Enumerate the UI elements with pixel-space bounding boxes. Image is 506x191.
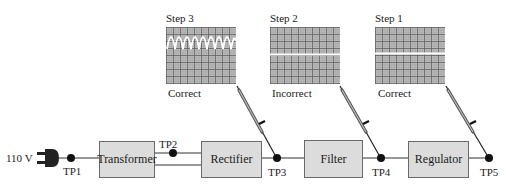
- scope-screen-step1: [375, 27, 445, 84]
- source-voltage-label: 110 V: [6, 153, 33, 164]
- step1-result: Correct: [378, 88, 411, 99]
- tp5-dot: [485, 154, 493, 162]
- troubleshooting-diagram: 110 V Transformer Rectifier Filter Regul…: [0, 0, 506, 191]
- tp4-label: TP4: [372, 167, 390, 178]
- tp4-dot: [377, 154, 385, 162]
- scope-screen-step2: [270, 27, 340, 84]
- step3-label: Step 3: [166, 13, 194, 24]
- tp1-dot: [67, 154, 75, 162]
- power-plug-icon: [37, 149, 59, 167]
- regulator-block: Regulator: [408, 141, 469, 178]
- tp2-dot: [169, 149, 177, 157]
- step3-result: Correct: [168, 88, 201, 99]
- tp3-label: TP3: [268, 167, 286, 178]
- step1-label: Step 1: [375, 13, 403, 24]
- tp2-label: TP2: [159, 139, 177, 150]
- tp1-label: TP1: [63, 166, 81, 177]
- flat-trace: [270, 27, 340, 84]
- tp3-dot: [273, 154, 281, 162]
- rectifier-block: Rectifier: [201, 141, 262, 178]
- filter-block: Filter: [304, 140, 363, 178]
- dc-trace: [375, 27, 445, 84]
- tp5-label: TP5: [480, 167, 498, 178]
- step2-result: Incorrect: [272, 88, 312, 99]
- scope-screen-step3: [166, 27, 236, 84]
- step2-label: Step 2: [270, 13, 298, 24]
- rectified-waveform: [166, 27, 236, 84]
- transformer-block: Transformer: [99, 141, 155, 178]
